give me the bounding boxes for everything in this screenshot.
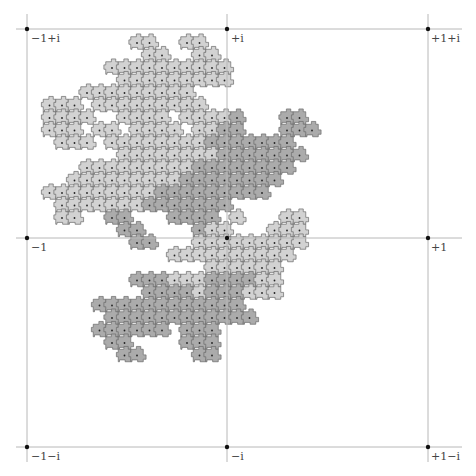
tile-center-dot xyxy=(286,242,288,244)
tile-center-dot xyxy=(199,230,201,232)
tile-center-dot xyxy=(124,167,126,169)
tile-center-dot xyxy=(199,142,201,144)
tile-center-dot xyxy=(124,142,126,144)
tile-center-dot xyxy=(174,317,176,319)
tile-center-dot xyxy=(186,305,188,307)
tile-center-dot xyxy=(211,255,213,257)
tile-center-dot xyxy=(124,80,126,82)
fractal-figure xyxy=(0,0,476,476)
tile-center-dot xyxy=(174,280,176,282)
tile-center-dot xyxy=(161,155,163,157)
tile-center-dot xyxy=(186,67,188,69)
tile-center-dot xyxy=(149,80,151,82)
tile-center-dot xyxy=(274,267,276,269)
tile-center-dot xyxy=(186,255,188,257)
tile-center-dot xyxy=(124,180,126,182)
tile-center-dot xyxy=(161,130,163,132)
tile-center-dot xyxy=(124,105,126,107)
tile-center-dot xyxy=(149,55,151,57)
tile-center-dot xyxy=(149,105,151,107)
tile-center-dot xyxy=(286,117,288,119)
tile-center-dot xyxy=(149,305,151,307)
tile-center-dot xyxy=(74,205,76,207)
tile-center-dot xyxy=(236,242,238,244)
tile-center-dot xyxy=(124,67,126,69)
tile-center-dot xyxy=(136,205,138,207)
tile-center-dot xyxy=(124,317,126,319)
tile-center-dot xyxy=(249,292,251,294)
tile-center-dot xyxy=(61,130,63,132)
tile-center-dot xyxy=(261,167,263,169)
tile-center-dot xyxy=(199,130,201,132)
tile-center-dot xyxy=(99,330,101,332)
tile-center-dot xyxy=(174,80,176,82)
tile-center-dot xyxy=(211,205,213,207)
tile-center-dot xyxy=(174,217,176,219)
tile-center-dot xyxy=(224,255,226,257)
tile-center-dot xyxy=(124,92,126,94)
tile-center-dot xyxy=(261,192,263,194)
tile-center-dot xyxy=(111,217,113,219)
tile-center-dot xyxy=(161,280,163,282)
tile-center-dot xyxy=(136,105,138,107)
tile-center-dot xyxy=(224,167,226,169)
tile-center-dot xyxy=(274,280,276,282)
tile-center-dot xyxy=(236,117,238,119)
tile-center-dot xyxy=(224,180,226,182)
tile-center-dot xyxy=(111,192,113,194)
tile-center-dot xyxy=(74,180,76,182)
tile-center-dot xyxy=(161,205,163,207)
tile-center-dot xyxy=(124,305,126,307)
tile-center-dot xyxy=(199,305,201,307)
tile-center-dot xyxy=(186,142,188,144)
tile-center-dot xyxy=(136,330,138,332)
tile-center-dot xyxy=(49,105,51,107)
tile-center-dot xyxy=(224,280,226,282)
tile-center-dot xyxy=(236,280,238,282)
tile-center-dot xyxy=(149,192,151,194)
tile-center-dot xyxy=(111,330,113,332)
tile-center-dot xyxy=(136,280,138,282)
tile-center-dot xyxy=(199,205,201,207)
tile-center-dot xyxy=(249,280,251,282)
tile-center-dot xyxy=(149,205,151,207)
tile-center-dot xyxy=(249,242,251,244)
tile-center-dot xyxy=(186,205,188,207)
tile-center-dot xyxy=(311,130,313,132)
tile-center-dot xyxy=(149,242,151,244)
tile-center-dot xyxy=(186,317,188,319)
tile-center-dot xyxy=(186,217,188,219)
tile-center-dot xyxy=(236,142,238,144)
tile-center-dot xyxy=(199,242,201,244)
tile-center-dot xyxy=(99,105,101,107)
lattice-point xyxy=(225,445,229,449)
tile-center-dot xyxy=(61,192,63,194)
tile-center-dot xyxy=(136,92,138,94)
tile-center-dot xyxy=(174,67,176,69)
tile-center-dot xyxy=(99,180,101,182)
tile-center-dot xyxy=(236,267,238,269)
tile-center-dot xyxy=(161,317,163,319)
tile-center-dot xyxy=(274,230,276,232)
label-minus-one: −1 xyxy=(31,241,47,254)
tile-center-dot xyxy=(211,292,213,294)
tile-center-dot xyxy=(224,205,226,207)
tile-center-dot xyxy=(261,292,263,294)
tile-center-dot xyxy=(149,280,151,282)
tile-center-dot xyxy=(261,267,263,269)
tile-center-dot xyxy=(236,192,238,194)
tile-center-dot xyxy=(211,280,213,282)
tile-center-dot xyxy=(174,130,176,132)
label-plus-i: +i xyxy=(231,32,244,45)
tile-center-dot xyxy=(224,292,226,294)
label-minus-one-plus-i: −1+i xyxy=(31,32,60,45)
tile-center-dot xyxy=(136,117,138,119)
tile-center-dot xyxy=(186,80,188,82)
tile-center-dot xyxy=(86,180,88,182)
tile-center-dot xyxy=(86,205,88,207)
tile-center-dot xyxy=(99,205,101,207)
tile-center-dot xyxy=(199,117,201,119)
tile-center-dot xyxy=(149,292,151,294)
tile-center-dot xyxy=(124,330,126,332)
tile-center-dot xyxy=(74,217,76,219)
